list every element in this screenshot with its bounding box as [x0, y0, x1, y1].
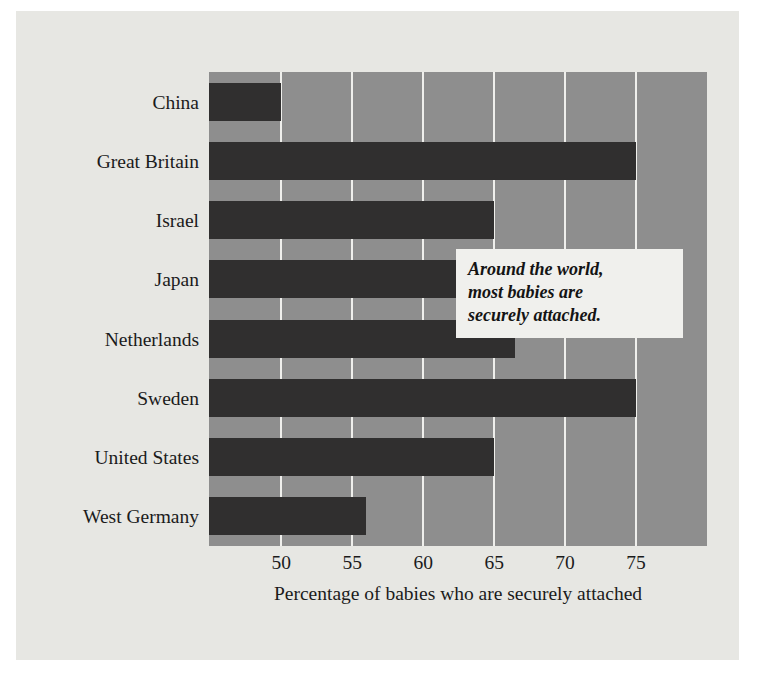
x-tick-label-75: 75 — [626, 553, 646, 573]
annotation-callout: Around the world,most babies aresecurely… — [456, 249, 683, 338]
x-tick-label-65: 65 — [484, 553, 504, 573]
x-axis-tick-labels: 505560657075 — [209, 553, 707, 583]
x-tick-label-70: 70 — [555, 553, 575, 573]
bar — [209, 83, 281, 121]
annotation-line: Around the world, — [468, 258, 671, 281]
category-label-united-states: United States — [94, 448, 199, 468]
category-label-israel: Israel — [156, 211, 199, 231]
category-label-sweden: Sweden — [137, 389, 199, 409]
bar — [209, 438, 494, 476]
figure-page: ChinaGreat BritainIsraelJapanNetherlands… — [0, 0, 772, 684]
x-tick-label-50: 50 — [272, 553, 292, 573]
x-tick-label-60: 60 — [413, 553, 433, 573]
annotation-line: securely attached. — [468, 304, 671, 327]
category-label-netherlands: Netherlands — [105, 330, 199, 350]
bar — [209, 379, 636, 417]
category-label-great-britain: Great Britain — [97, 152, 199, 172]
category-label-japan: Japan — [155, 270, 199, 290]
bar — [209, 201, 494, 239]
bar — [209, 142, 636, 180]
bar — [209, 497, 366, 535]
category-label-china: China — [152, 93, 199, 113]
figure-card: ChinaGreat BritainIsraelJapanNetherlands… — [16, 11, 739, 660]
x-tick-label-55: 55 — [343, 553, 363, 573]
category-axis-labels: ChinaGreat BritainIsraelJapanNetherlands… — [16, 72, 199, 546]
annotation-callout-text: Around the world,most babies aresecurely… — [468, 258, 671, 327]
annotation-line: most babies are — [468, 281, 671, 304]
category-label-west-germany: West Germany — [83, 507, 199, 527]
x-axis-title: Percentage of babies who are securely at… — [209, 583, 707, 605]
